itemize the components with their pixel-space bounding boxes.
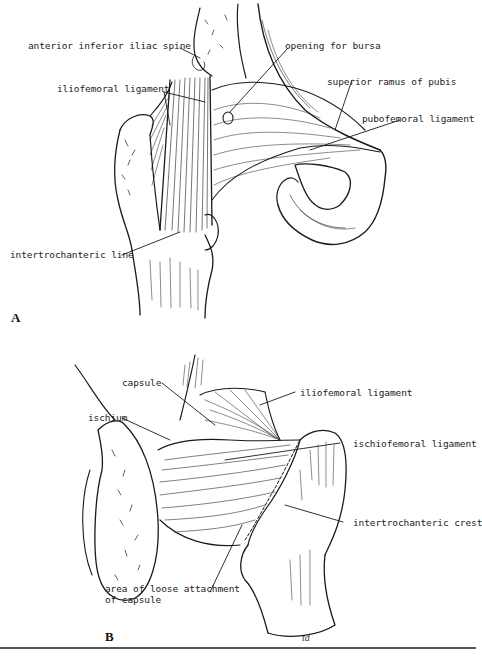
- label-iliofemoral-ligament-a: iliofemoral ligament: [57, 83, 169, 94]
- panel-letter-a: A: [11, 310, 20, 326]
- label-area-loose-attachment-cont: of capsule: [105, 594, 161, 605]
- label-intertrochanteric-crest: intertrochanteric crest: [353, 517, 482, 528]
- bottom-rule-divider: [0, 647, 476, 649]
- label-intertrochanteric-line: intertrochanteric line: [10, 249, 134, 260]
- artist-signature: td: [302, 632, 310, 643]
- label-pubofemoral-ligament: pubofemoral ligament: [362, 113, 474, 124]
- label-superior-ramus-of-pubis: superior ramus of pubis: [327, 76, 456, 87]
- label-capsule: capsule: [122, 377, 161, 388]
- label-ischiofemoral-ligament: ischiofemoral ligament: [353, 438, 477, 449]
- panel-a-drawing: [115, 4, 400, 318]
- label-anterior-inferior-iliac-spine: anterior inferior iliac spine: [28, 40, 191, 51]
- label-iliofemoral-ligament-b: iliofemoral ligament: [300, 387, 412, 398]
- label-ischium: ischium: [88, 412, 127, 423]
- panel-letter-b: B: [105, 629, 114, 645]
- label-opening-for-bursa: opening for bursa: [285, 40, 381, 51]
- label-area-loose-attachment: area of loose attachment: [105, 583, 240, 594]
